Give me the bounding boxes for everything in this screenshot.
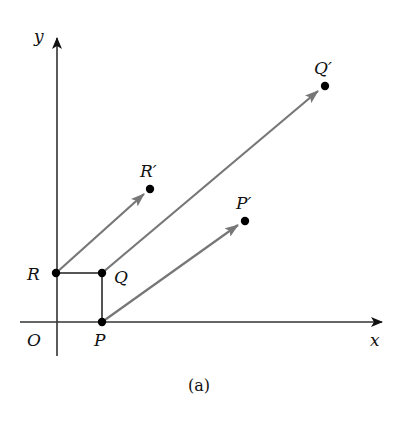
- point-R-prime: [146, 185, 154, 193]
- point-Q: [98, 269, 106, 277]
- x-axis-label: x: [370, 330, 380, 350]
- y-axis-label: y: [33, 26, 44, 46]
- label-P: P: [93, 330, 106, 350]
- label-P-prime: P′: [235, 193, 251, 213]
- figure-caption: (a): [188, 376, 210, 395]
- point-P: [98, 318, 106, 326]
- point-P-prime: [241, 217, 249, 225]
- origin-label: O: [27, 330, 41, 350]
- label-Q-prime: Q′: [314, 58, 332, 78]
- label-Q: Q: [114, 267, 128, 287]
- label-R-prime: R′: [139, 161, 157, 181]
- translation-diagram: y x O R Q P R′ P′ Q′ (a): [0, 0, 401, 424]
- point-R: [52, 269, 60, 277]
- vector-R-to-R-prime: [56, 194, 144, 273]
- point-Q-prime: [321, 82, 329, 90]
- label-R: R: [26, 264, 40, 284]
